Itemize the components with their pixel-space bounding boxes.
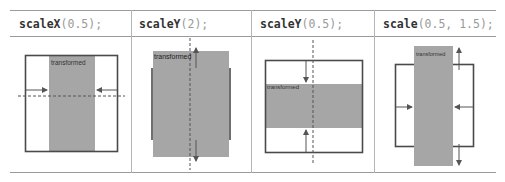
figure-scaley-half: transformed [266,40,363,164]
figure-scalex: transformed [18,55,125,152]
figure-label: transformed [154,53,191,60]
figure-scaley-2: transformed [152,38,230,170]
transformed-element [49,55,95,152]
figure-scale-both: transformed [396,46,474,166]
figure-label: transformed [416,51,445,57]
transformed-element [414,46,453,166]
figure-label: transformed [267,84,299,90]
transformed-element [266,84,362,128]
transform-diagrams: transformed transformed transformed [0,0,505,182]
transformed-element [153,51,229,157]
figure-label: transformed [51,59,86,66]
